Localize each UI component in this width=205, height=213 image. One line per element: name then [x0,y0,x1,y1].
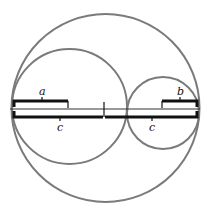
brace-c-right [105,111,197,121]
brace-a [14,97,68,108]
label-c-left: c [57,121,63,134]
label-a: a [39,85,46,98]
label-c-right: c [149,121,155,134]
brace-c-left [14,111,103,121]
outer-circle [12,14,200,202]
right-circle [127,77,199,149]
brace-b [162,97,197,108]
left-circle [12,49,127,164]
arbelos-diagram: a b c c [0,0,205,213]
label-b: b [177,85,184,98]
